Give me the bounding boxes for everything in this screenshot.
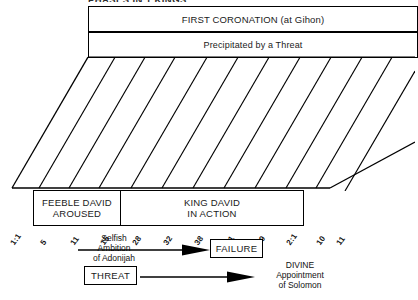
cause-threat-box: THREAT xyxy=(84,266,137,285)
outcome-divine-appointment: DIVINE Appointment of Solomon xyxy=(252,260,348,290)
outcome-failure-label: FAILURE xyxy=(216,243,258,254)
section-right-line2: IN ACTION xyxy=(187,208,236,219)
banner-first-coronation: FIRST CORONATION (at Gihon) xyxy=(88,6,418,32)
banner-precipitated-by-threat: Precipitated by a Threat xyxy=(88,32,418,58)
cause-line-1: Selfish xyxy=(72,233,156,243)
effect-line-3: of Solomon xyxy=(252,280,348,290)
verse-label-0: 1:1 xyxy=(9,232,23,247)
arrow-right-icon-1 xyxy=(78,244,210,256)
section-king-david-in-action: KING DAVID IN ACTION xyxy=(120,190,304,226)
section-left-line2: AROUSED xyxy=(53,208,101,219)
chart-title: PHASES IN 1 KINGS xyxy=(88,0,288,2)
section-left-line1: FEEBLE DAVID xyxy=(42,197,112,208)
effect-line-2: Appointment xyxy=(252,270,348,280)
verse-label-11: 11 xyxy=(335,235,347,247)
cause-threat-label: THREAT xyxy=(91,270,130,281)
stripe-graphic xyxy=(0,55,415,191)
striped-timeline-panel: 1:1 5 11 15 28 32 38 41 49 2:1 10 11 xyxy=(0,55,415,191)
banner-heading-label: FIRST CORONATION (at Gihon) xyxy=(182,14,325,25)
verse-label-9: 2:1 xyxy=(285,232,299,247)
section-feeble-david-aroused: FEEBLE DAVID AROUSED xyxy=(33,190,121,226)
outcome-failure-box: FAILURE xyxy=(210,239,263,258)
verse-label-1: 5 xyxy=(39,238,49,247)
effect-line-1: DIVINE xyxy=(252,260,348,270)
section-right-line1: KING DAVID xyxy=(184,197,240,208)
banner-subheading-label: Precipitated by a Threat xyxy=(204,40,303,50)
arrow-right-icon-2 xyxy=(140,271,255,283)
verse-label-10: 10 xyxy=(315,234,328,247)
